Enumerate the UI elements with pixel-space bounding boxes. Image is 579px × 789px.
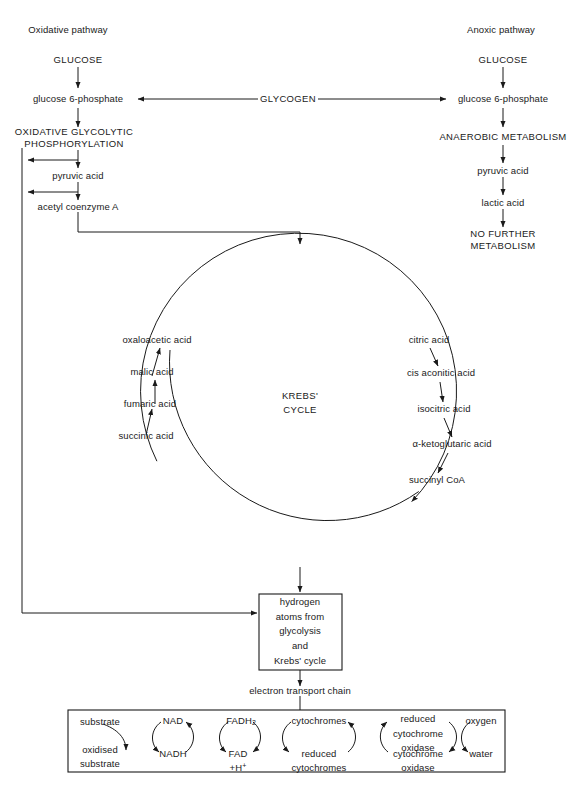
right-node-anaerobic-metabolism: ANAEROBIC METABOLISM	[439, 131, 566, 143]
hydrogen-atoms-box-label: hydrogen atoms from glycolysis and Krebs…	[274, 595, 326, 669]
left-node-glucose: GLUCOSE	[54, 54, 103, 66]
krebs-cycle-center-label: KREBS' CYCLE	[282, 389, 318, 417]
krebs-node-isocitric-acid: isocitric acid	[417, 403, 470, 415]
krebs-node-alpha-ketoglutaric-acid: α-ketoglutaric acid	[412, 438, 491, 450]
krebs-node-cis-aconitic-acid: cis aconitic acid	[407, 367, 475, 379]
etc-couple-4-bottom: reduced cytochromes	[292, 747, 347, 776]
etc-couple-3-bottom-proton: +H+	[230, 762, 247, 774]
krebs-node-fumaric-acid: fumaric acid	[124, 398, 176, 410]
etc-couple-6-bottom: water	[469, 748, 493, 760]
diagram-canvas: Oxidative pathway GLUCOSE glucose 6-phos…	[0, 0, 579, 789]
etc-couple-3-top: FADH2	[226, 715, 256, 728]
etc-couple-5-bottom: cytochrome oxidase	[393, 747, 443, 776]
header-right: Anoxic pathway	[467, 24, 535, 36]
right-node-pyruvic-acid: pyruvic acid	[477, 165, 528, 177]
left-node-acetyl-coenzyme-a: acetyl coenzyme A	[38, 201, 119, 213]
etc-couple-2-top: NAD	[163, 715, 183, 727]
left-node-oxidative-glycolytic-phosphorylation: OXIDATIVE GLYCOLYTIC PHOSPHORYLATION	[15, 126, 133, 150]
etc-couple-3-bottom-fad: FAD	[229, 748, 248, 760]
right-node-glucose-6-phosphate: glucose 6-phosphate	[458, 93, 548, 105]
etc-couple-4-top: cytochromes	[292, 715, 347, 727]
etc-couple-1-bottom: oxidised substrate	[80, 743, 120, 772]
etc-couple-1-top: substrate	[80, 716, 120, 728]
right-node-glucose: GLUCOSE	[479, 54, 528, 66]
krebs-node-malic-acid: malic acid	[130, 366, 173, 378]
krebs-node-oxaloacetic-acid: oxaloacetic acid	[122, 334, 191, 346]
left-node-pyruvic-acid: pyruvic acid	[52, 170, 103, 182]
right-node-lactic-acid: lactic acid	[482, 197, 525, 209]
right-node-no-further-metabolism: NO FURTHER METABOLISM	[470, 228, 536, 252]
krebs-node-succinic-acid: succinic acid	[118, 430, 173, 442]
krebs-node-succinyl-coa: succinyl CoA	[409, 474, 465, 486]
electron-transport-chain-label: electron transport chain	[249, 685, 351, 697]
etc-couple-2-bottom: NADH	[159, 748, 186, 760]
etc-couple-6-top: oxygen	[465, 715, 496, 727]
left-node-glucose-6-phosphate: glucose 6-phosphate	[33, 93, 123, 105]
header-left: Oxidative pathway	[28, 24, 107, 36]
bridge-node-glycogen: GLYCOGEN	[260, 93, 316, 105]
krebs-node-citric-acid: citric acid	[409, 334, 450, 346]
